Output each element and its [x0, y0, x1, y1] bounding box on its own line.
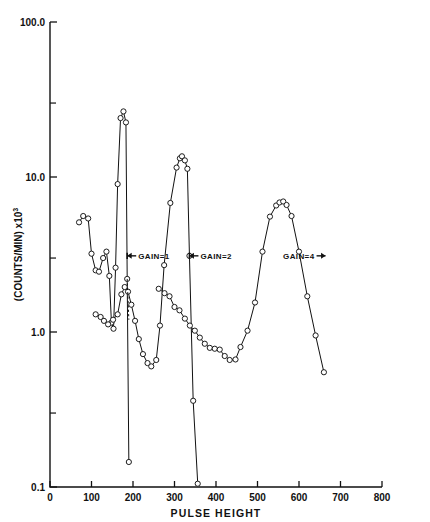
scatter-line-chart: 01002003004005006007008000.11.010.0100.0…	[0, 0, 430, 522]
data-point-marker	[197, 335, 202, 340]
data-point-marker	[191, 398, 196, 403]
y-axis-title: (COUNTS/MIN) x103	[12, 208, 24, 301]
data-point-marker	[212, 346, 217, 351]
data-point-marker	[260, 249, 265, 254]
data-point-marker	[122, 284, 127, 289]
y-axis-title-text: (COUNTS/MIN) x10	[13, 211, 24, 301]
x-tick-label: 700	[332, 492, 349, 503]
data-point-marker	[267, 214, 272, 219]
data-point-marker	[110, 317, 115, 322]
x-axis-title: PULSE HEIGHT	[171, 507, 262, 519]
data-point-marker	[321, 370, 326, 375]
data-point-marker	[245, 328, 250, 333]
data-point-marker	[238, 344, 243, 349]
data-point-marker	[252, 300, 257, 305]
annotation-arrowhead	[321, 253, 326, 259]
data-point-marker	[93, 312, 98, 317]
data-point-marker	[305, 294, 310, 299]
data-point-marker	[182, 316, 187, 321]
data-point-marker	[185, 166, 190, 171]
gain-annotation-label: GAIN=2	[200, 252, 232, 261]
data-point-marker	[217, 347, 222, 352]
data-point-marker	[119, 292, 124, 297]
data-point-marker	[96, 269, 101, 274]
data-point-marker	[136, 336, 141, 341]
data-point-marker	[187, 323, 192, 328]
data-point-marker	[76, 220, 81, 225]
data-point-marker	[284, 202, 289, 207]
data-point-marker	[157, 323, 162, 328]
data-point-marker	[289, 213, 294, 218]
data-point-marker	[222, 353, 227, 358]
x-tick-label: 800	[374, 492, 391, 503]
data-point-marker	[89, 251, 94, 256]
data-point-marker	[101, 255, 106, 260]
series-gain-4-spectrum	[156, 199, 326, 375]
y-tick-label: 0.1	[31, 482, 45, 493]
data-point-marker	[154, 357, 159, 362]
x-tick-label: 200	[125, 492, 142, 503]
data-point-marker	[118, 115, 123, 120]
data-point-marker	[129, 302, 134, 307]
data-point-marker	[162, 263, 167, 268]
gain-annotation-label: GAIN=4	[283, 252, 315, 261]
series-line	[79, 111, 129, 462]
data-point-marker	[115, 312, 120, 317]
data-point-marker	[121, 109, 126, 114]
data-point-marker	[192, 328, 197, 333]
data-point-marker	[202, 341, 207, 346]
x-tick-label: 100	[83, 492, 100, 503]
data-point-marker	[233, 357, 238, 362]
data-point-marker	[132, 318, 137, 323]
x-tick-label: 600	[291, 492, 308, 503]
x-tick-label: 500	[249, 492, 266, 503]
data-point-marker	[313, 333, 318, 338]
y-tick-label: 1.0	[31, 327, 45, 338]
data-point-marker	[113, 265, 118, 270]
data-point-marker	[81, 213, 86, 218]
data-point-marker	[104, 249, 109, 254]
x-tick-label: 0	[47, 492, 53, 503]
data-point-marker	[111, 326, 116, 331]
data-point-marker	[162, 291, 167, 296]
y-axis-title-exponent: 3	[12, 208, 19, 212]
data-point-marker	[115, 181, 120, 186]
data-point-marker	[195, 481, 200, 486]
data-point-marker	[106, 322, 111, 327]
data-point-marker	[156, 286, 161, 291]
data-point-marker	[177, 308, 182, 313]
gain-annotation	[127, 253, 136, 259]
figure-container: 01002003004005006007008000.11.010.0100.0…	[0, 0, 430, 522]
data-point-marker	[182, 158, 187, 163]
gain-annotation	[317, 253, 326, 259]
data-point-marker	[149, 364, 154, 369]
data-point-marker	[107, 273, 112, 278]
data-point-marker	[167, 294, 172, 299]
x-tick-label: 400	[208, 492, 225, 503]
data-point-marker	[174, 165, 179, 170]
data-point-marker	[168, 200, 173, 205]
data-point-marker	[207, 345, 212, 350]
data-point-marker	[140, 352, 145, 357]
y-tick-label: 100.0	[20, 17, 45, 28]
x-tick-label: 300	[166, 492, 183, 503]
gain-annotation-label: GAIN=1	[138, 252, 170, 261]
data-point-marker	[123, 120, 128, 125]
y-tick-label: 10.0	[26, 172, 46, 183]
data-point-marker	[86, 216, 91, 221]
data-point-marker	[126, 459, 131, 464]
data-point-marker	[172, 304, 177, 309]
data-point-marker	[227, 357, 232, 362]
